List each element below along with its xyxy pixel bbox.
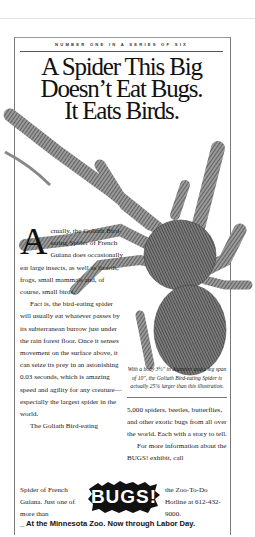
illustration-caption: With a body 3½" in diameter and a leg sp… bbox=[127, 365, 227, 391]
body-para-3-start: The Goliath Bird-eating bbox=[20, 420, 123, 432]
body-para-3-tail: Spider of French Guiana. Just one of mor… bbox=[20, 484, 80, 521]
body-para-2: Fact is, the bird-eating spider will usu… bbox=[20, 298, 123, 420]
tagline-text: At the Minnesota Zoo. Now through Labor … bbox=[26, 519, 195, 528]
bugs-logo-text: BUGS! bbox=[88, 484, 160, 510]
body-right-para-2: For more information about the BUGS! exh… bbox=[127, 440, 227, 464]
body-copy-left: A ctually, the Goliath Bird-eating Spide… bbox=[20, 225, 123, 432]
body-copy-right: With a body 3½" in diameter and a leg sp… bbox=[127, 365, 227, 465]
caption-rule bbox=[127, 397, 227, 398]
hotline-contact: the Zoo-To-Do Hotline at 612-432-9000. bbox=[165, 484, 227, 521]
drop-cap: A bbox=[20, 226, 47, 256]
series-label: NUMBER ONE IN A SERIES OF SIX bbox=[14, 42, 229, 47]
body-right-para-1: 5,000 spiders, beetles, butterflies, and… bbox=[127, 404, 227, 441]
scan-edge-line bbox=[0, 18, 255, 19]
series-rule bbox=[20, 51, 223, 52]
tagline: _ At the Minnesota Zoo. Now through Labo… bbox=[20, 519, 230, 528]
